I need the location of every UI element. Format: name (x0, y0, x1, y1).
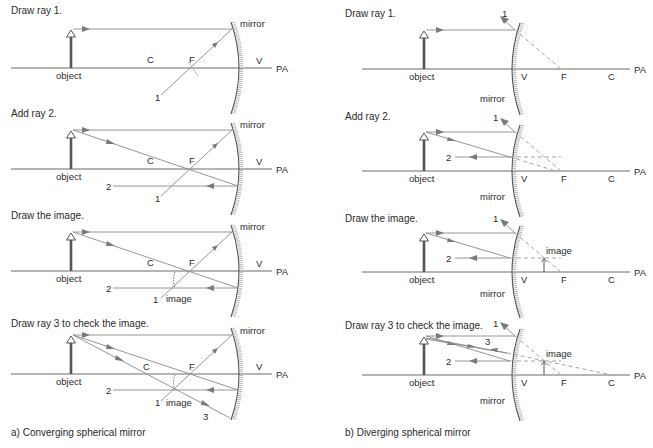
focal-point-label: F (189, 54, 195, 65)
principal-axis-label: PA (276, 369, 289, 380)
object-label: object (56, 70, 82, 81)
step-title: Draw ray 1. (345, 8, 396, 19)
image-label: image (546, 348, 572, 359)
ray-1-label: 1 (493, 112, 498, 123)
principal-axis-label: PA (276, 266, 289, 277)
center-of-curvature-label: C (147, 54, 154, 65)
vertex-label: V (256, 361, 263, 372)
mirror-label: mirror (240, 221, 265, 232)
vertex-label: V (256, 156, 263, 167)
center-of-curvature-label: C (608, 377, 615, 388)
object-label: object (56, 376, 82, 387)
image-label: image (166, 293, 192, 304)
converging-panel-4: Draw ray 3 to check the image. C F V PA … (11, 318, 289, 422)
diverging-panel-2: Add ray 2. 1 2 V F C PA mirror object (345, 111, 647, 217)
center-of-curvature-label: C (608, 173, 615, 184)
center-of-curvature-label: C (608, 71, 615, 82)
converging-panel-1: Draw ray 1. C F V PA mirror object 1 (11, 5, 289, 114)
ray-3-label: 3 (485, 336, 490, 347)
ray-1-label: 1 (493, 318, 498, 329)
principal-axis-label: PA (634, 267, 647, 278)
vertex-label: V (521, 377, 528, 388)
object-label: object (409, 274, 435, 285)
mirror-label: mirror (480, 93, 505, 104)
diverging-panel-1: Draw ray 1. 1 V F C PA mirror object (345, 8, 647, 115)
mirror-label: mirror (240, 325, 265, 336)
step-title: Draw ray 3 to check the image. (11, 318, 149, 329)
vertex-label: V (256, 258, 263, 269)
ray-2-label: 2 (446, 356, 451, 367)
mirror-label: mirror (480, 288, 505, 299)
image-label: image (546, 245, 572, 256)
vertex-label: V (521, 173, 528, 184)
ray-1-label: 1 (493, 213, 498, 224)
vertex-label: V (521, 274, 528, 285)
step-title: Draw ray 3 to check the image. (345, 320, 483, 331)
ray-1-label: 1 (155, 397, 160, 408)
mirror-label: mirror (480, 191, 505, 202)
diverging-panel-4: Draw ray 3 to check the image. 1 3 2 ima… (345, 318, 647, 421)
center-of-curvature-label: C (147, 257, 154, 268)
ray-2-label: 2 (106, 385, 111, 396)
mirror-label: mirror (240, 119, 265, 130)
focal-point-label: F (189, 257, 195, 268)
focal-point-label: F (189, 361, 195, 372)
ray-2-label: 2 (106, 283, 111, 294)
focal-point-label: F (561, 274, 567, 285)
principal-axis-label: PA (634, 166, 647, 177)
ray-1-label: 1 (502, 8, 507, 19)
focal-point-label: F (189, 155, 195, 166)
center-of-curvature-label: C (608, 274, 615, 285)
ray-3-label: 3 (203, 411, 208, 422)
focal-point-label: F (561, 71, 567, 82)
principal-axis-label: PA (634, 64, 647, 75)
focal-point-label: F (561, 173, 567, 184)
principal-axis-label: PA (634, 370, 647, 381)
caption-diverging: b) Diverging spherical mirror (345, 427, 471, 438)
object-label: object (409, 173, 435, 184)
diverging-panel-3: Draw the image. 1 2 image V F C PA mirro… (345, 213, 647, 318)
principal-axis-label: PA (276, 63, 289, 74)
ray-2-label: 2 (446, 152, 451, 163)
converging-panel-2: Add ray 2. C F V PA mirror object 2 1 (11, 108, 289, 215)
ray-1-label: 1 (153, 294, 158, 305)
ray-2-label: 2 (106, 181, 111, 192)
vertex-label: V (256, 55, 263, 66)
vertex-label: V (521, 71, 528, 82)
caption-converging: a) Converging spherical mirror (11, 427, 146, 438)
mirror-label: mirror (240, 18, 265, 29)
mirror-label: mirror (480, 395, 505, 406)
center-of-curvature-label: C (147, 155, 154, 166)
object-label: object (56, 171, 82, 182)
ray-diagram-figure: Draw ray 1. C F V PA mirror object 1 Add… (0, 0, 653, 448)
object-label: object (409, 377, 435, 388)
ray-2-label: 2 (446, 253, 451, 264)
principal-axis-label: PA (276, 164, 289, 175)
object-label: object (56, 273, 82, 284)
ray-1-label: 1 (155, 193, 160, 204)
ray-1-label: 1 (155, 92, 160, 103)
step-title: Add ray 2. (345, 111, 391, 122)
step-title: Draw ray 1. (11, 5, 62, 16)
step-title: Add ray 2. (11, 108, 57, 119)
image-label: image (166, 397, 192, 408)
step-title: Draw the image. (11, 210, 84, 221)
center-of-curvature-label: C (143, 361, 150, 372)
step-title: Draw the image. (345, 213, 418, 224)
converging-panel-3: Draw the image. C F V PA mirror object 2… (11, 210, 289, 317)
object-label: object (409, 71, 435, 82)
focal-point-label: F (561, 377, 567, 388)
